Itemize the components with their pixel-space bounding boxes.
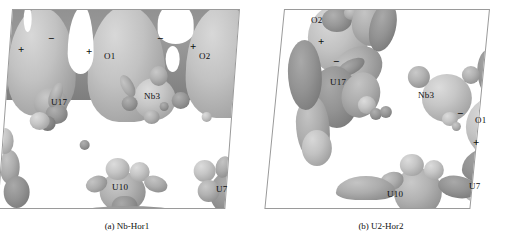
charge-sign-positive: + [86,46,92,57]
panel-a: + − + − + O1 O2 U17 Nb3 U10 U7 (a) Nb-Ho… [0,0,254,247]
atom-label-u17: U17 [330,78,346,87]
charge-sign-negative: − [457,108,463,119]
panel-b: O2 + − U17 Nb3 − O1 + U10 U7 (b) U2-Hor2 [254,0,508,247]
figure-container: + − + − + O1 O2 U17 Nb3 U10 U7 (a) Nb-Ho… [0,0,508,247]
charge-sign-negative: − [48,33,54,44]
density-lobe [288,40,322,110]
atom-label-u10: U10 [112,183,128,192]
charge-sign-positive: + [318,36,324,47]
atom-label-u10: U10 [387,190,403,199]
charge-sign-negative: − [333,56,339,67]
atom-blob [202,112,212,122]
density-void [68,9,94,74]
atom-label-o2: O2 [199,52,210,61]
atom-blob [122,96,138,111]
atom-label-nb3: Nb3 [144,92,160,101]
isosurface-canvas-a [0,9,240,209]
atom-blob [400,154,424,176]
panel-caption-b: (b) U2-Hor2 [254,221,508,231]
density-lobe [488,9,490,84]
density-lobe [142,173,170,196]
charge-sign-positive: + [190,41,196,52]
atom-blob [160,102,169,111]
atom-blob [80,140,90,150]
charge-sign-positive: + [473,137,479,148]
density-void [166,46,180,72]
atom-label-u7: U7 [469,182,480,191]
charge-sign-negative: − [157,33,163,44]
charge-sign-positive: + [18,44,24,55]
atom-blob [150,66,168,86]
atom-blob [106,158,130,180]
panel-caption-a: (a) Nb-Hor1 [0,221,254,231]
density-lobe [4,176,30,208]
atom-blob [462,66,480,84]
atom-blob [144,110,160,124]
density-lobe [302,130,332,166]
atom-blob [172,92,190,109]
unit-cell-frame-a [0,9,240,209]
atom-blob [452,122,461,131]
atom-blob [380,106,392,118]
density-lobe [54,206,204,209]
atom-blob [194,160,216,182]
atom-blob [424,160,444,180]
atom-label-nb3: Nb3 [418,91,434,100]
atom-blob [408,66,430,88]
atom-label-o2: O2 [311,16,322,25]
atom-label-o1: O1 [104,52,115,61]
atom-label-u17: U17 [51,98,67,107]
atom-blob [30,112,50,130]
atom-label-o1: O1 [475,116,486,125]
atom-label-u7: U7 [216,185,227,194]
